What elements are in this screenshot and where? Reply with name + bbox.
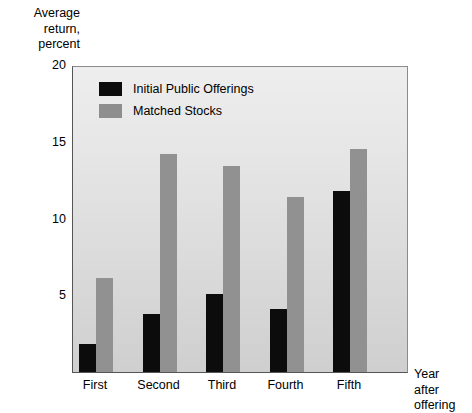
bar-first-matched (96, 278, 113, 372)
y-tick-label: 20 (28, 58, 66, 72)
bar-fifth-matched (350, 149, 367, 372)
legend-item-matched: Matched Stocks (99, 100, 254, 122)
x-axis-label-third: Third (187, 378, 257, 392)
x-axis-label-first: First (60, 378, 130, 392)
x-axis-label-fifth: Fifth (314, 378, 384, 392)
bar-first-ipo (79, 344, 96, 372)
legend-swatch-matched-icon (99, 104, 122, 118)
legend-item-ipo: Initial Public Offerings (99, 78, 254, 100)
legend-swatch-ipo-icon (99, 82, 122, 96)
bar-second-matched (160, 154, 177, 372)
bar-second-ipo (143, 314, 160, 372)
x-axis-title: Year after offering (414, 367, 455, 413)
y-tick-label: 10 (28, 212, 66, 226)
y-axis-title: Average return, percent (8, 6, 80, 53)
legend-label-matched: Matched Stocks (133, 104, 222, 118)
bar-fourth-matched (287, 197, 304, 372)
x-axis-label-fourth: Fourth (251, 378, 321, 392)
x-axis-label-second: Second (124, 378, 194, 392)
bar-fifth-ipo (333, 191, 350, 372)
chart-plot-area: Initial Public Offerings Matched Stocks (72, 66, 408, 373)
bar-third-matched (223, 166, 240, 372)
y-tick-label: 15 (28, 135, 66, 149)
chart-legend: Initial Public Offerings Matched Stocks (99, 78, 254, 122)
bar-fourth-ipo (270, 309, 287, 372)
legend-label-ipo: Initial Public Offerings (133, 82, 254, 96)
y-tick-label: 5 (28, 288, 66, 302)
bar-third-ipo (206, 294, 223, 372)
